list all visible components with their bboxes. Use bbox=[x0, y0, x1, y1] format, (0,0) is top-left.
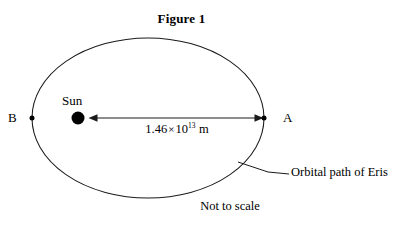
point-b-marker bbox=[30, 116, 35, 121]
figure-title: Figure 1 bbox=[0, 11, 363, 27]
point-b-label: B bbox=[8, 110, 17, 126]
distance-mantissa: 1.46 bbox=[145, 122, 167, 136]
figure-drawing bbox=[0, 0, 413, 227]
not-to-scale-note: Not to scale bbox=[140, 199, 320, 214]
orbit-callout-leader-line bbox=[238, 162, 289, 174]
distance-arrow bbox=[89, 114, 264, 121]
distance-base: 10 bbox=[175, 122, 188, 136]
figure-container: tion coefficient and the mass of the blo… bbox=[0, 0, 413, 227]
sun-label: Sun bbox=[62, 93, 82, 109]
point-a-label: A bbox=[283, 110, 292, 126]
distance-unit: m bbox=[199, 122, 209, 136]
sun-marker bbox=[72, 112, 85, 125]
orbital-path-callout-label: Orbital path of Eris bbox=[291, 165, 388, 180]
distance-exponent: 13 bbox=[188, 121, 196, 130]
point-a-marker bbox=[262, 116, 267, 121]
distance-arrowhead-left bbox=[89, 114, 98, 121]
distance-value-label: 1.46×1013 m bbox=[97, 122, 257, 137]
